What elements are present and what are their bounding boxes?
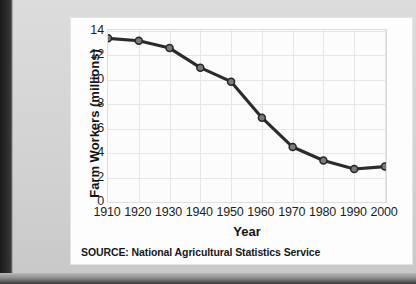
data-point-marker [135,37,142,44]
x-axis-tick-label: 1940 [186,206,213,219]
data-point-marker [197,64,204,71]
data-point-marker [320,157,327,164]
x-axis-tick-label: 1920 [124,206,151,219]
x-axis-tick-label: 1990 [340,206,367,219]
x-axis-tick-label: 1910 [93,206,120,219]
figure-mount-frame: Farm Workers (millions) 02468101214 1910… [13,0,416,273]
x-axis-tick-label: 1960 [247,206,274,219]
data-point-marker [289,144,296,151]
x-axis-tick-label: 1980 [309,206,336,219]
gridline-horizontal [108,202,386,203]
y-axis-tick-label: 6 [70,121,104,134]
data-point-marker [351,166,358,173]
source-note: SOURCE: National Agricultural Statistics… [81,246,320,258]
y-axis-tick-label: 8 [70,97,104,110]
data-point-marker [166,45,173,52]
x-axis-tick-label: 1970 [278,206,305,219]
line-chart: Farm Workers (millions) 02468101214 1910… [71,18,414,266]
data-point-marker [382,163,388,170]
data-point-marker [107,35,112,42]
series-line [108,38,385,169]
chart-figure: Farm Workers (millions) 02468101214 1910… [70,17,413,265]
y-axis-tick-label: 12 [70,48,104,61]
plot-area [107,29,387,203]
x-axis-tick-label: 2000 [370,206,397,219]
data-point-marker [258,114,265,121]
y-axis-tick-labels: 02468101214 [71,29,104,203]
y-axis-tick-label: 10 [70,73,104,86]
y-axis-tick-label: 2 [70,170,104,183]
x-axis-tick-labels: 1910192019301940195019601970198019902000 [107,206,387,224]
y-axis-tick-label: 4 [70,146,104,159]
y-axis-tick-label: 14 [70,24,104,37]
data-point-marker [228,78,235,85]
x-axis-tick-label: 1930 [155,206,182,219]
data-series-farm-workers [108,30,386,202]
x-axis-tick-label: 1950 [217,206,244,219]
x-axis-title: Year [107,224,387,239]
